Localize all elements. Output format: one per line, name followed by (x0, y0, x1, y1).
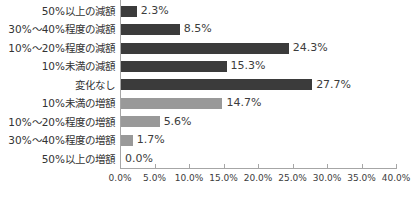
bar-row: 30%〜40%程度の減額8.5% (0, 20, 413, 38)
axis-tick-label: 35.0% (347, 173, 376, 183)
value-label: 0.0% (125, 150, 153, 168)
axis-tick-label: 15.0% (209, 173, 238, 183)
axis-tick (189, 164, 190, 168)
bar (121, 135, 133, 146)
category-label: 10%未満の増額 (0, 94, 115, 112)
bar (121, 98, 222, 109)
category-label: 30%〜40%程度の増額 (0, 131, 115, 149)
category-label: 30%〜40%程度の減額 (0, 20, 115, 38)
axis-tick-label: 30.0% (313, 173, 342, 183)
bar-row: 50%以上の減額2.3% (0, 2, 413, 20)
axis-tick (362, 164, 363, 168)
category-label: 10%〜20%程度の増額 (0, 113, 115, 131)
axis-tick (327, 164, 328, 168)
value-label: 27.7% (316, 76, 351, 94)
axis-tick-label: 20.0% (244, 173, 273, 183)
horizontal-bar-chart: 50%以上の減額2.3%30%〜40%程度の減額8.5%10%〜20%程度の減額… (0, 0, 413, 198)
bar (121, 43, 289, 54)
bar-row: 変化なし27.7% (0, 76, 413, 94)
axis-tick-label: 40.0% (382, 173, 411, 183)
value-label: 15.3% (231, 57, 266, 75)
value-label: 1.7% (137, 131, 165, 149)
axis-tick (258, 164, 259, 168)
value-label: 24.3% (293, 39, 328, 57)
bar (121, 116, 160, 127)
bar-row: 30%〜40%程度の増額1.7% (0, 131, 413, 149)
value-label: 8.5% (184, 20, 212, 38)
axis-tick-label: 10.0% (175, 173, 204, 183)
category-label: 10%〜20%程度の減額 (0, 39, 115, 57)
axis-tick (155, 164, 156, 168)
bar-row: 10%未満の減額15.3% (0, 57, 413, 75)
bar (121, 61, 227, 72)
bar-row: 10%〜20%程度の増額5.6% (0, 113, 413, 131)
axis-tick-label: 0.0% (109, 173, 132, 183)
bar-row: 10%未満の増額14.7% (0, 94, 413, 112)
category-label: 10%未満の減額 (0, 57, 115, 75)
value-axis-line (120, 168, 397, 169)
bar (121, 6, 137, 17)
axis-tick (293, 164, 294, 168)
axis-tick (396, 164, 397, 168)
category-label: 50%以上の減額 (0, 2, 115, 20)
axis-tick-label: 25.0% (278, 173, 307, 183)
category-axis-line (120, 0, 121, 168)
value-label: 5.6% (164, 113, 192, 131)
value-label: 14.7% (226, 94, 261, 112)
category-label: 50%以上の増額 (0, 150, 115, 168)
axis-tick-label: 5.0% (143, 173, 166, 183)
bar-row: 10%〜20%程度の減額24.3% (0, 39, 413, 57)
axis-tick (224, 164, 225, 168)
bar (121, 79, 312, 90)
bar (121, 24, 180, 35)
axis-tick (120, 164, 121, 168)
value-label: 2.3% (141, 2, 169, 20)
bar-row: 50%以上の増額0.0% (0, 150, 413, 168)
category-label: 変化なし (0, 76, 115, 94)
